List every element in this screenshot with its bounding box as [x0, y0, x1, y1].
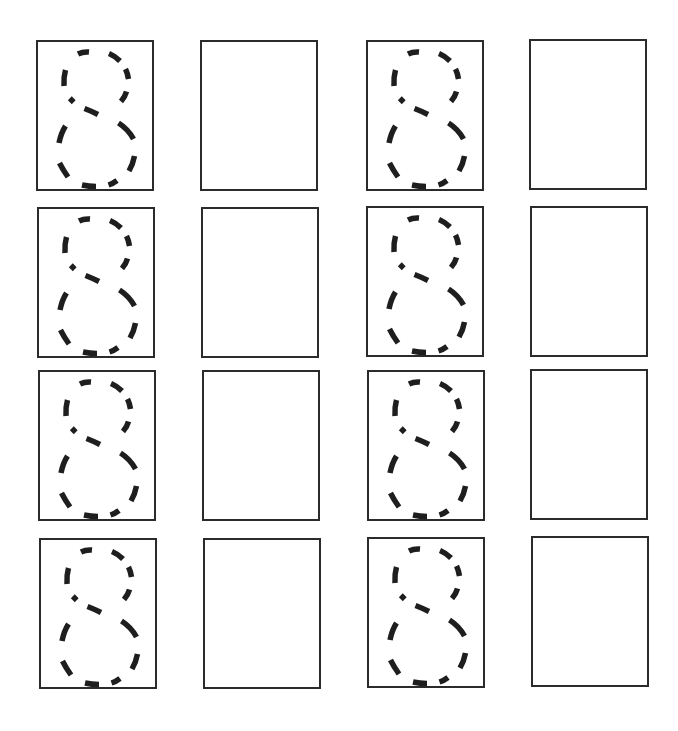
blank-practice-box-r2-c2 — [201, 207, 319, 358]
dashed-digit-eight-icon — [367, 370, 485, 521]
tracing-worksheet — [0, 0, 678, 731]
dashed-digit-eight-icon — [366, 206, 484, 357]
blank-practice-box-r1-c4 — [529, 39, 647, 190]
dashed-digit-eight-icon — [366, 40, 484, 191]
dashed-digit-eight-icon — [39, 538, 157, 689]
trace-box-r3-c3 — [367, 370, 485, 521]
trace-box-r3-c1 — [38, 370, 156, 521]
dashed-digit-eight-icon — [37, 207, 155, 358]
trace-box-r1-c3 — [366, 40, 484, 191]
blank-practice-box-r4-c4 — [531, 536, 649, 687]
trace-box-r4-c1 — [39, 538, 157, 689]
blank-practice-box-r1-c2 — [200, 40, 318, 191]
trace-box-r1-c1 — [36, 40, 154, 191]
dashed-digit-eight-icon — [38, 370, 156, 521]
blank-practice-box-r3-c4 — [530, 369, 648, 520]
trace-box-r2-c3 — [366, 206, 484, 357]
blank-practice-box-r3-c2 — [202, 370, 320, 521]
trace-box-r2-c1 — [37, 207, 155, 358]
blank-practice-box-r4-c2 — [203, 538, 321, 689]
trace-box-r4-c3 — [367, 537, 485, 688]
dashed-digit-eight-icon — [367, 537, 485, 688]
blank-practice-box-r2-c4 — [530, 206, 648, 357]
dashed-digit-eight-icon — [36, 40, 154, 191]
